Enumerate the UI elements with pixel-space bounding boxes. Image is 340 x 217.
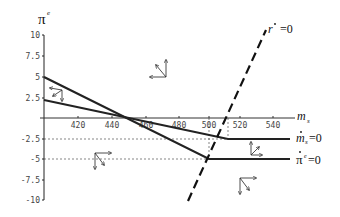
y-tick-label: 5 [35, 73, 40, 82]
r-zero-locus [188, 30, 266, 201]
m-line-label: m s =0 [296, 131, 322, 146]
x-axis-label: m s [297, 109, 310, 125]
m-s-zero-locus [44, 100, 290, 139]
x-tick-label: 520 [233, 121, 248, 130]
y-tick-label: 10 [30, 31, 40, 40]
y-tick-label: -2.5 [21, 135, 40, 144]
y-tick-label: -7.5 [21, 176, 40, 185]
svg-text:m: m [296, 131, 305, 145]
x-tick-label: 420 [71, 121, 86, 130]
svg-text:=0: =0 [308, 153, 321, 167]
arrow-cluster-upper [150, 60, 166, 77]
phase-diagram: 10 7.5 5 2.5 -2.5 -5 -7.5 -10 420 440 46… [0, 0, 340, 217]
svg-text:s: s [307, 117, 310, 125]
svg-text:π: π [38, 11, 46, 27]
y-tick-label: 2.5 [26, 94, 41, 103]
svg-text:=0: =0 [280, 22, 293, 36]
svg-text:e: e [304, 153, 307, 159]
y-axis-label: π e [38, 9, 50, 27]
arrow-cluster-right-middle [251, 142, 262, 155]
svg-text:s: s [305, 138, 308, 146]
svg-text:=0: =0 [309, 131, 322, 145]
y-tick-label: -10 [26, 196, 41, 205]
svg-text:π: π [296, 152, 303, 167]
x-tick-label: 440 [105, 121, 120, 130]
svg-text:m: m [297, 109, 306, 123]
y-tick-label: 7.5 [26, 52, 41, 61]
pi-line-label: π e =0 [296, 151, 321, 167]
r-line-label: r =0 [268, 22, 293, 36]
arrow-cluster-lower-right [240, 178, 256, 194]
x-tick-label: 540 [266, 121, 281, 130]
svg-text:r: r [268, 22, 273, 36]
arrow-cluster-left [50, 88, 62, 101]
arrow-cluster-lower-left [95, 153, 111, 169]
svg-text:e: e [47, 9, 50, 17]
y-tick-label: -5 [30, 155, 40, 164]
